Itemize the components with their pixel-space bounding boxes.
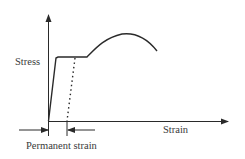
- y-axis-label: Stress: [15, 57, 40, 68]
- stress-strain-curve: [49, 34, 158, 121]
- x-axis-label: Strain: [163, 125, 188, 136]
- unloading-dotted-line: [67, 58, 75, 121]
- stress-strain-diagram: [0, 0, 245, 159]
- permanent-strain-label: Permanent strain: [26, 141, 97, 152]
